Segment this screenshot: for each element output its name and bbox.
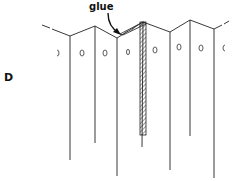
hole-icon [177,44,181,50]
hole-icon [223,45,225,51]
diagram-figure: glue D [0,0,240,181]
fold-top-dashed-right [224,21,229,24]
hole-icon [199,45,203,51]
panel-label: D [4,71,13,84]
hole-icon [103,50,107,56]
hole-icon [57,50,59,56]
hole-icon [153,47,157,53]
fold-top-dashed-left [42,25,70,36]
glue-label: glue [89,1,114,12]
folded-strip-drawing [0,0,240,181]
hole-icon [127,49,130,54]
hole-icon [80,50,84,56]
